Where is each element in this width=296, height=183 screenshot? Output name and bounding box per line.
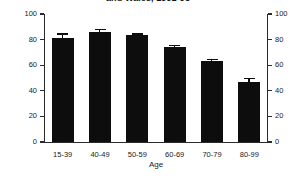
y-tick-label-right-80: 80 (275, 36, 283, 44)
bar (238, 82, 260, 142)
y-tick-left-20 (40, 116, 44, 117)
bar-group (164, 14, 186, 142)
x-axis-line (44, 142, 268, 143)
y-axis-left-line (44, 14, 45, 142)
error-bar-cap (244, 78, 255, 79)
error-bar-cap (207, 59, 218, 60)
y-tick-label-right-20: 20 (275, 112, 283, 120)
bar (52, 38, 74, 142)
y-tick-right-0 (268, 141, 272, 142)
bar-group (126, 14, 148, 142)
y-tick-label-left-0: 0 (33, 138, 37, 146)
y-tick-left-60 (40, 65, 44, 66)
y-tick-right-20 (268, 116, 272, 117)
y-tick-label-left-100: 100 (24, 10, 37, 18)
y-tick-right-60 (268, 65, 272, 66)
chart-figure: and Wales, 1991-95 Relative survival (%)… (0, 0, 296, 183)
y-tick-right-80 (268, 39, 272, 40)
bar-group (52, 14, 74, 142)
y-tick-label-right-0: 0 (275, 138, 279, 146)
bar-group (201, 14, 223, 142)
y-tick-label-left-20: 20 (29, 112, 37, 120)
error-bar-cap (169, 45, 180, 46)
y-tick-right-100 (268, 13, 272, 14)
y-tick-label-right-100: 100 (275, 10, 288, 18)
bar-group (89, 14, 111, 142)
error-bar-cap (57, 33, 68, 34)
x-tick-label-80-99: 80-99 (227, 150, 271, 159)
chart-title: and Wales, 1991-95 (0, 0, 296, 3)
y-tick-left-80 (40, 39, 44, 40)
y-tick-left-40 (40, 90, 44, 91)
y-tick-right-40 (268, 90, 272, 91)
y-tick-label-left-60: 60 (29, 61, 37, 69)
x-axis-title: Age (44, 160, 268, 169)
y-tick-left-0 (40, 141, 44, 142)
y-tick-label-right-40: 40 (275, 87, 283, 95)
y-tick-label-right-60: 60 (275, 61, 283, 69)
error-bar-cap (95, 29, 106, 30)
bar (89, 32, 111, 142)
error-bar-cap (132, 33, 143, 34)
bar-group (238, 14, 260, 142)
plot-area: 020406080100 020406080100 15-3940-4950-5… (44, 14, 268, 142)
bar (201, 61, 223, 142)
y-tick-label-left-80: 80 (29, 36, 37, 44)
bar (126, 35, 148, 142)
y-tick-label-left-40: 40 (29, 87, 37, 95)
y-axis-right-line (267, 14, 268, 142)
y-tick-left-100 (40, 13, 44, 14)
bar (164, 47, 186, 142)
